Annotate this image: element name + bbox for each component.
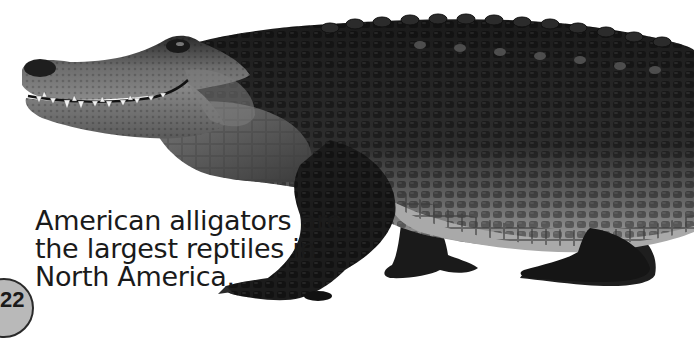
caption-line-1: American alligators are [35,207,305,235]
caption-line-2: the largest reptiles in [35,235,305,263]
alligator-head [22,36,255,139]
caption: American alligators are the largest rept… [35,207,305,291]
page-number: 22 [0,287,24,313]
caption-line-3: North America. [35,263,305,291]
